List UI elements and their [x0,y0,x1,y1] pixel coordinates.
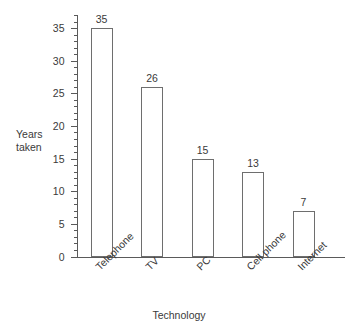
y-axis-tick-label: 5 [43,219,65,230]
y-axis-minor-tick [74,113,78,114]
y-axis-minor-tick [74,243,78,244]
y-axis-tick-label: 35 [43,23,65,34]
y-axis-minor-tick [74,217,78,218]
y-axis-tick-label: 20 [43,121,65,132]
y-axis-minor-tick [74,106,78,107]
y-axis-minor-tick [74,211,78,212]
bar-value-label: 13 [233,158,273,169]
y-axis-minor-tick [74,230,78,231]
bar-value-label: 15 [183,145,223,156]
y-axis-minor-tick [74,165,78,166]
y-axis-major-tick [71,191,78,192]
y-axis-minor-tick [74,198,78,199]
y-axis-tick-label: 25 [43,88,65,99]
y-axis-minor-tick [74,237,78,238]
y-axis-line [77,15,78,257]
y-axis-minor-tick [74,22,78,23]
y-axis-major-tick [71,61,78,62]
y-axis-tick-label: 30 [43,56,65,67]
y-axis-minor-tick [74,178,78,179]
y-axis-major-tick [71,126,78,127]
y-axis-minor-tick [74,146,78,147]
bar[interactable] [141,87,163,258]
y-axis-tick-label: 10 [43,186,65,197]
bar-value-label: 7 [284,197,324,208]
y-axis-major-tick [71,224,78,225]
y-axis-minor-tick [74,185,78,186]
y-axis-tick-label: 0 [43,252,65,263]
bar[interactable] [242,172,264,258]
bar-value-label: 35 [82,14,122,25]
x-axis-title: Technology [0,309,358,321]
y-axis-major-tick [71,159,78,160]
y-axis-minor-tick [74,204,78,205]
y-axis-minor-tick [74,67,78,68]
y-axis-minor-tick [74,100,78,101]
y-axis-tick-label: 15 [43,154,65,165]
bar[interactable] [91,28,113,257]
y-axis-minor-tick [74,48,78,49]
y-axis-major-tick [71,93,78,94]
y-axis-major-tick [71,28,78,29]
bar-value-label: 26 [132,73,172,84]
y-axis-minor-tick [74,80,78,81]
y-axis-minor-tick [74,35,78,36]
y-axis-minor-tick [74,74,78,75]
bar-chart: Years taken Technology 0510152025303535T… [0,0,358,335]
y-axis-minor-tick [74,132,78,133]
y-axis-major-tick [71,257,78,258]
y-axis-minor-tick [74,15,78,16]
y-axis-minor-tick [74,119,78,120]
y-axis-minor-tick [74,139,78,140]
y-axis-minor-tick [74,152,78,153]
y-axis-minor-tick [74,172,78,173]
y-axis-minor-tick [74,41,78,42]
y-axis-minor-tick [74,250,78,251]
y-axis-minor-tick [74,87,78,88]
y-axis-minor-tick [74,54,78,55]
bar[interactable] [192,159,214,258]
